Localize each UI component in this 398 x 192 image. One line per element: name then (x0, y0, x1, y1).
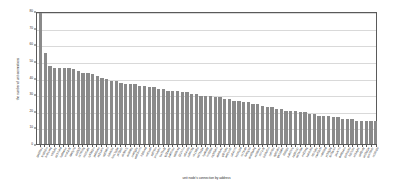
bar (299, 112, 302, 144)
bar (72, 69, 75, 144)
bar (218, 97, 221, 144)
bar (313, 114, 316, 144)
bar (157, 89, 160, 144)
bar (261, 106, 264, 144)
bar (308, 114, 311, 144)
y-tick-label: 0 (31, 143, 33, 146)
bar (115, 81, 118, 144)
bar (350, 119, 353, 144)
bar (256, 104, 259, 144)
y-axis-ticks: 01020304050607080 (0, 12, 36, 145)
y-tick-label: 70 (29, 27, 33, 30)
bar (105, 79, 108, 144)
bar (143, 86, 146, 144)
bar (58, 68, 61, 144)
y-tick-label: 30 (29, 94, 33, 97)
bar (369, 121, 372, 144)
bar (289, 111, 292, 144)
bar (195, 94, 198, 144)
bar-series (37, 13, 376, 144)
bar (77, 71, 80, 144)
y-tick-label: 80 (29, 10, 33, 13)
bar (266, 107, 269, 144)
bar (360, 121, 363, 144)
bar (280, 109, 283, 144)
bar (81, 73, 84, 144)
bar (332, 117, 335, 144)
bar (133, 84, 136, 144)
x-axis-title: unit node's connection by address (36, 177, 377, 180)
bar (48, 66, 51, 144)
bar (119, 83, 122, 145)
bar (138, 86, 141, 144)
x-axis-tick-labels: gwj20p1fc18k2mbn91x4qtr55v8zqk37n6dhs84w… (36, 147, 377, 175)
bar (341, 119, 344, 144)
bar (275, 109, 278, 144)
bar (100, 78, 103, 145)
bar (228, 99, 231, 144)
bar (242, 102, 245, 144)
bar (162, 89, 165, 144)
bar (124, 84, 127, 144)
bar (346, 119, 349, 144)
bar (110, 81, 113, 144)
bar (317, 116, 320, 144)
bar (336, 117, 339, 144)
bar (355, 121, 358, 144)
bar (204, 96, 207, 144)
bar (251, 104, 254, 144)
bar (365, 121, 368, 144)
y-tick-label: 60 (29, 44, 33, 47)
bar (232, 101, 235, 144)
y-tick-label: 10 (29, 127, 33, 130)
bar (322, 116, 325, 144)
bar (171, 91, 174, 144)
bar (190, 94, 193, 144)
bar (53, 68, 56, 144)
bar (214, 97, 217, 144)
bar (303, 112, 306, 144)
bar (176, 91, 179, 144)
bar-chart-figure: the number of unit connections 010203040… (0, 0, 398, 192)
bar (152, 87, 155, 144)
bar (129, 84, 132, 144)
bar (96, 76, 99, 144)
bar (86, 73, 89, 144)
y-tick-label: 40 (29, 77, 33, 80)
bar (44, 53, 47, 144)
y-tick-label: 50 (29, 60, 33, 63)
bar (91, 74, 94, 144)
bar (237, 101, 240, 144)
bar (148, 87, 151, 144)
bar (67, 68, 70, 144)
bar (327, 116, 330, 144)
bar (199, 96, 202, 144)
bar (63, 68, 66, 144)
bar (209, 96, 212, 144)
bar (185, 92, 188, 144)
bar (294, 111, 297, 144)
bar (223, 99, 226, 144)
bar (39, 13, 42, 144)
bar (284, 111, 287, 144)
y-tick-label: 20 (29, 110, 33, 113)
plot-area (36, 12, 377, 145)
bar (270, 107, 273, 144)
bar (181, 92, 184, 144)
bar (166, 91, 169, 144)
bar (247, 102, 250, 144)
bar (374, 121, 377, 144)
